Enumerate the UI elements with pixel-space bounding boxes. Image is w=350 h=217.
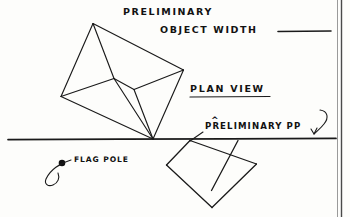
plan-view-underline bbox=[190, 97, 270, 98]
sketch-page: PRELIMINARY OBJECT WIDTH PLAN VIEW ^ PRE… bbox=[0, 0, 350, 217]
flag-pole-label: FLAG POLE bbox=[74, 156, 129, 164]
title-line-2: OBJECT WIDTH bbox=[160, 25, 258, 35]
preliminary-pp-label: PRELIMINARY PP bbox=[205, 122, 301, 131]
horizon-line bbox=[8, 138, 336, 139]
plan-view-label: PLAN VIEW bbox=[190, 84, 265, 94]
title-line-1: PRELIMINARY bbox=[123, 7, 213, 17]
object-width-blank-line bbox=[278, 31, 331, 32]
